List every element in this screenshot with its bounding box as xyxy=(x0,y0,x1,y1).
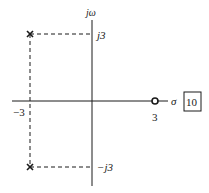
tick-label-minus-j3: −j3 xyxy=(97,161,113,173)
imaginary-axis-label: jω xyxy=(84,7,96,18)
pole-zero-plot: jω j3 −j3 −3 3 σ 10 xyxy=(0,0,209,193)
tick-label-minus-3: −3 xyxy=(13,106,25,118)
zero-icon xyxy=(152,98,158,104)
real-axis-label: σ xyxy=(171,95,177,107)
tick-label-j3: j3 xyxy=(95,29,106,41)
tick-label-3: 3 xyxy=(152,111,158,123)
gain-value: 10 xyxy=(186,96,198,108)
